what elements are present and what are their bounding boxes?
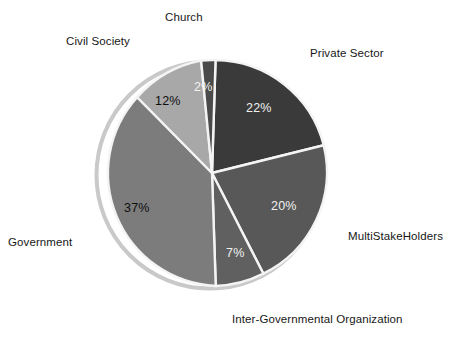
- pie-value-multistakeholders: 20%: [271, 199, 297, 213]
- pie-value-government: 37%: [124, 201, 150, 215]
- pie-label-church: Church: [165, 11, 203, 24]
- pie-value-private-sector: 22%: [246, 101, 272, 115]
- pie-value-civil-society: 12%: [155, 94, 181, 108]
- pie-label-government: Government: [8, 236, 72, 249]
- pie-label-inter-governmental-organization: Inter-Governmental Organization: [232, 313, 403, 326]
- pie-label-multistakeholders: MultiStakeHolders: [348, 230, 443, 243]
- pie-value-church: 2%: [194, 80, 212, 94]
- pie-chart-canvas: [0, 0, 462, 342]
- pie-label-private-sector: Private Sector: [310, 47, 384, 60]
- pie-slices: [108, 60, 327, 286]
- pie-value-inter-governmental-organization: 7%: [226, 246, 244, 260]
- pie-chart: Church Civil Society Private Sector Mult…: [0, 0, 462, 342]
- pie-label-civil-society: Civil Society: [66, 35, 130, 48]
